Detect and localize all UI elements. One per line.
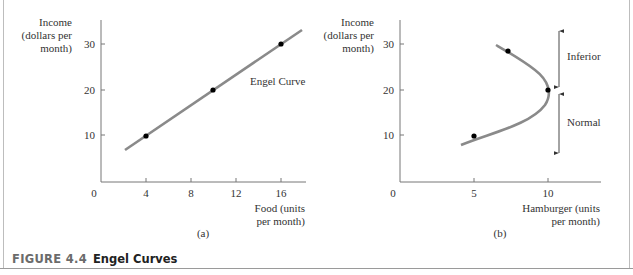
chart-b-point-10-20 [545, 87, 550, 92]
chart-a-ytick-20: 20 [84, 84, 96, 96]
chart-b-x-ticks: 0 5 10 [390, 178, 554, 199]
chart-a-xlabel-line1: Food (units [255, 202, 305, 215]
chart-a-x-ticks: 0 4 8 12 16 [91, 178, 287, 199]
figure-title: Engel Curves [93, 252, 177, 266]
figure-canvas: Income (dollars per month) 30 20 10 0 4 … [0, 0, 633, 275]
chart-b-engel-curve [461, 45, 549, 145]
normal-label: Normal [567, 116, 601, 128]
chart-a-xlabel-line2: per month) [256, 215, 305, 228]
inferior-label: Inferior [567, 50, 601, 62]
chart-a-ylabel-line3: month) [40, 42, 72, 55]
chart-b-ytick-10: 10 [383, 129, 395, 141]
chart-a-curve-label: Engel Curve [250, 75, 305, 87]
chart-b-ylabel-line1: Income [341, 16, 374, 28]
chart-b-xtick-0: 0 [390, 187, 396, 199]
chart-b-point-7-28 [505, 48, 510, 53]
chart-a-ylabel-line2: (dollars per [22, 29, 73, 42]
chart-b-point-5-10 [471, 133, 476, 138]
chart-a-y-ticks: 30 20 10 [84, 38, 105, 141]
figure-caption: FIGURE 4.4Engel Curves [12, 252, 177, 266]
chart-b-ytick-20: 20 [383, 84, 395, 96]
chart-a-xtick-16: 16 [276, 187, 288, 199]
chart-a-xtick-12: 12 [231, 187, 242, 199]
chart-b-panel-label: (b) [494, 227, 507, 240]
chart-b-ylabel-line2: (dollars per [324, 29, 375, 42]
figure-number: FIGURE 4.4 [12, 252, 87, 266]
chart-b-ylabel-line3: month) [342, 42, 374, 55]
chart-b-ytick-30: 30 [383, 38, 395, 50]
chart-b: Income (dollars per month) 30 20 10 0 5 … [324, 16, 601, 240]
chart-b-xtick-10: 10 [543, 187, 555, 199]
chart-a-point-16-30 [278, 41, 283, 46]
chart-a-xtick-4: 4 [143, 187, 149, 199]
chart-a: Income (dollars per month) 30 20 10 0 4 … [22, 16, 306, 240]
chart-b-y-ticks: 30 20 10 [383, 38, 404, 141]
chart-a-xtick-0: 0 [91, 187, 97, 199]
chart-a-point-4-10 [143, 133, 148, 138]
chart-a-xtick-8: 8 [188, 187, 194, 199]
chart-a-ylabel-line1: Income [39, 16, 72, 28]
chart-a-panel-label: (a) [197, 227, 210, 240]
chart-a-point-10-20 [210, 87, 215, 92]
chart-b-xlabel-line2: per month) [551, 215, 600, 228]
chart-b-xtick-5: 5 [471, 187, 477, 199]
chart-b-xlabel-line1: Hamburger (units [522, 202, 600, 215]
chart-a-ytick-10: 10 [84, 129, 96, 141]
chart-a-ytick-30: 30 [84, 38, 96, 50]
